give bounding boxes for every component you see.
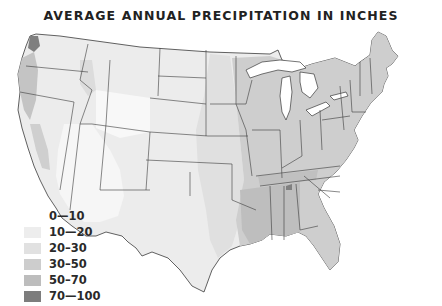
legend-label: 50–70 [49, 273, 87, 287]
legend-swatch [24, 243, 41, 254]
legend-label: 70—100 [49, 289, 101, 303]
legend-label: 20–30 [49, 241, 87, 255]
legend-label: 10—20 [49, 225, 93, 239]
legend-swatch [24, 227, 41, 238]
legend-label: 30–50 [49, 257, 87, 271]
legend-swatch [24, 291, 41, 302]
legend: 0—10 10—20 20–30 30–50 50–70 70—100 [24, 208, 101, 304]
legend-label: 0—10 [49, 209, 85, 223]
legend-swatch [24, 259, 41, 270]
legend-item: 0—10 [24, 208, 101, 224]
legend-item: 10—20 [24, 224, 101, 240]
legend-item: 30–50 [24, 256, 101, 272]
legend-swatch [24, 275, 41, 286]
legend-item: 50–70 [24, 272, 101, 288]
legend-item: 20–30 [24, 240, 101, 256]
legend-swatch [24, 211, 41, 222]
legend-item: 70—100 [24, 288, 101, 304]
